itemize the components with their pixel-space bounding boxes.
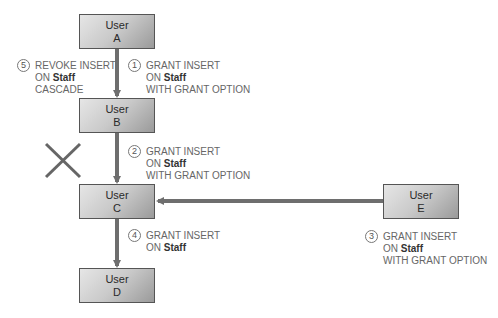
step-2-badge: 2: [128, 145, 141, 158]
user-e-id: E: [417, 202, 424, 215]
user-e-node: User E: [383, 184, 459, 219]
step-1-badge: 1: [128, 59, 141, 72]
user-b-id: B: [113, 116, 120, 129]
step-3-badge: 3: [365, 230, 378, 243]
step-5-label: REVOKE INSERT ON Staff CASCADE: [35, 60, 116, 96]
user-b-node: User B: [79, 98, 155, 133]
revoke-x-icon: [46, 144, 80, 177]
step-1-label: GRANT INSERT ON Staff WITH GRANT OPTION: [146, 60, 250, 96]
user-c-label: User: [105, 189, 128, 202]
step-4-label: GRANT INSERT ON Staff: [146, 230, 220, 254]
user-a-node: User A: [79, 14, 155, 49]
user-c-node: User C: [79, 184, 155, 219]
user-a-label: User: [105, 19, 128, 32]
user-c-id: C: [113, 202, 121, 215]
user-d-id: D: [113, 286, 121, 299]
user-a-id: A: [113, 32, 120, 45]
user-b-label: User: [105, 103, 128, 116]
step-2-label: GRANT INSERT ON Staff WITH GRANT OPTION: [146, 146, 250, 182]
user-d-label: User: [105, 273, 128, 286]
step-3-label: GRANT INSERT ON Staff WITH GRANT OPTION: [383, 231, 487, 267]
step-4-badge: 4: [128, 229, 141, 242]
step-5-badge: 5: [17, 59, 30, 72]
user-e-label: User: [409, 189, 432, 202]
user-d-node: User D: [79, 268, 155, 303]
